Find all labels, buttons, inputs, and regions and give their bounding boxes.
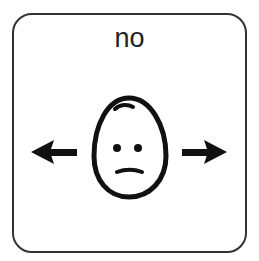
left-eye [113, 144, 121, 152]
mouth [117, 170, 142, 172]
arrow-right-icon [182, 140, 227, 164]
arrow-left-icon [31, 140, 77, 164]
right-eye [134, 144, 142, 152]
symbol-picture [0, 0, 259, 261]
face-icon [94, 98, 166, 197]
